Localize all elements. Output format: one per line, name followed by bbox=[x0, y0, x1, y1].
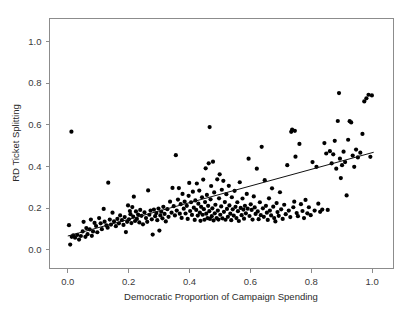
data-point bbox=[233, 205, 237, 209]
data-point bbox=[236, 209, 240, 213]
data-point bbox=[258, 200, 262, 204]
data-point bbox=[190, 213, 194, 217]
data-point bbox=[170, 186, 174, 190]
data-point bbox=[287, 208, 291, 212]
data-point bbox=[316, 202, 320, 206]
data-point bbox=[220, 188, 224, 192]
y-tick-label: 0.6 bbox=[28, 119, 41, 130]
data-point bbox=[222, 210, 226, 214]
data-point bbox=[225, 207, 229, 211]
data-point bbox=[141, 222, 145, 226]
data-point bbox=[95, 230, 99, 234]
data-point bbox=[106, 181, 110, 185]
data-point bbox=[210, 206, 214, 210]
data-point bbox=[252, 194, 256, 198]
data-point bbox=[161, 205, 165, 209]
data-point bbox=[253, 205, 257, 209]
data-point bbox=[219, 204, 223, 208]
data-point bbox=[351, 153, 355, 157]
data-point bbox=[331, 152, 335, 156]
data-point bbox=[97, 216, 101, 220]
data-point bbox=[275, 210, 279, 214]
data-point bbox=[336, 119, 340, 123]
data-point bbox=[285, 163, 289, 167]
x-tick-label: 0.0 bbox=[61, 276, 74, 287]
data-point bbox=[223, 200, 227, 204]
data-point bbox=[175, 208, 179, 212]
y-tick-label: 0.4 bbox=[28, 161, 41, 172]
data-point bbox=[145, 220, 149, 224]
data-point bbox=[354, 147, 358, 151]
data-point bbox=[121, 223, 125, 227]
data-point bbox=[256, 209, 260, 213]
data-point bbox=[247, 214, 251, 218]
data-point bbox=[322, 141, 326, 145]
data-point bbox=[166, 215, 170, 219]
data-point bbox=[291, 205, 295, 209]
data-point bbox=[262, 215, 266, 219]
data-point bbox=[229, 218, 233, 222]
data-point bbox=[182, 207, 186, 211]
data-point bbox=[364, 96, 368, 100]
data-point bbox=[110, 211, 114, 215]
x-tick-label: 0.4 bbox=[183, 276, 196, 287]
data-point bbox=[152, 207, 156, 211]
data-point bbox=[260, 145, 264, 149]
data-point bbox=[320, 207, 324, 211]
data-point bbox=[102, 207, 106, 211]
data-point bbox=[201, 213, 205, 217]
data-point bbox=[227, 184, 231, 188]
data-point bbox=[197, 188, 201, 192]
x-tick-label: 1.0 bbox=[366, 276, 379, 287]
data-point bbox=[144, 216, 148, 220]
y-tick-label: 1.0 bbox=[28, 36, 41, 47]
data-point bbox=[132, 195, 136, 199]
data-point bbox=[169, 211, 173, 215]
x-axis-title: Democratic Proportion of Campaign Spendi… bbox=[124, 291, 318, 302]
data-point bbox=[338, 157, 342, 161]
data-point bbox=[67, 223, 71, 227]
data-point bbox=[333, 139, 337, 143]
data-point bbox=[278, 190, 282, 194]
data-point bbox=[177, 186, 181, 190]
data-point bbox=[328, 149, 332, 153]
data-point bbox=[168, 200, 172, 204]
data-point bbox=[142, 210, 146, 214]
data-point bbox=[313, 208, 317, 212]
data-point bbox=[106, 226, 110, 230]
data-point bbox=[293, 129, 297, 133]
data-point bbox=[266, 218, 270, 222]
data-point bbox=[129, 221, 133, 225]
data-point bbox=[100, 227, 104, 231]
data-point bbox=[273, 219, 277, 223]
data-point bbox=[212, 190, 216, 194]
data-point bbox=[267, 196, 271, 200]
data-point bbox=[201, 177, 205, 181]
data-point bbox=[221, 179, 225, 183]
data-point bbox=[151, 232, 155, 236]
data-point bbox=[345, 193, 349, 197]
data-point bbox=[268, 208, 272, 212]
data-point bbox=[89, 217, 93, 221]
data-point bbox=[270, 186, 274, 190]
data-point bbox=[187, 194, 191, 198]
data-point bbox=[218, 172, 222, 176]
data-point bbox=[208, 197, 212, 201]
data-point bbox=[341, 150, 345, 154]
data-point bbox=[282, 203, 286, 207]
data-point bbox=[216, 208, 220, 212]
data-point bbox=[82, 220, 86, 224]
data-point bbox=[164, 219, 168, 223]
data-point bbox=[242, 217, 246, 221]
data-point bbox=[99, 221, 103, 225]
data-point bbox=[79, 234, 83, 238]
data-point bbox=[183, 211, 187, 215]
data-point bbox=[352, 165, 356, 169]
x-tick-label: 0.6 bbox=[244, 276, 257, 287]
data-point bbox=[360, 132, 364, 136]
data-point bbox=[339, 176, 343, 180]
data-point bbox=[68, 242, 72, 246]
data-point bbox=[207, 161, 211, 165]
data-point bbox=[138, 208, 142, 212]
data-point bbox=[326, 208, 330, 212]
